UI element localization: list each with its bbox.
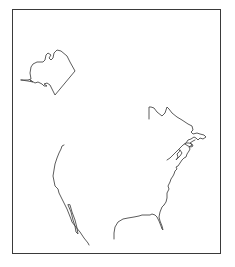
northeast-coastline [149, 107, 206, 160]
alaska-coastline [21, 50, 75, 95]
atlantic-coastline [164, 140, 195, 205]
baja-california-coastline [68, 205, 78, 234]
coastline-map [0, 0, 235, 267]
pacific-coastline [53, 145, 89, 245]
gulf-coastline [114, 205, 164, 239]
